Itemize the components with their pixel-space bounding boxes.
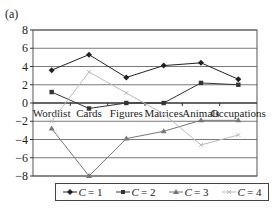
y-tick-label: 0 — [22, 96, 28, 110]
legend-cross-marker-icon — [222, 187, 236, 197]
legend-item-c3: C = 3 — [169, 186, 209, 198]
legend-item-c2: C = 2 — [116, 186, 156, 198]
legend-label-var: C — [79, 186, 86, 198]
y-tick-label: 4 — [22, 60, 28, 74]
y-tick-label: −8 — [15, 169, 28, 183]
y-axis: 86420−2−4−6−8 — [15, 23, 33, 183]
x-category-label: Figures — [110, 107, 143, 119]
y-tick-label: −6 — [15, 151, 28, 165]
legend-label-value: = 4 — [247, 186, 261, 198]
legend: C = 1 C = 2 C = 3 C = 4 — [55, 183, 269, 201]
legend-label-var: C — [238, 186, 245, 198]
y-tick-label: −2 — [15, 114, 28, 128]
line-chart: 86420−2−4−6−8 WordlistCardsFiguresMatric… — [0, 0, 272, 183]
legend-label-value: = 1 — [88, 186, 102, 198]
legend-item-c1: C = 1 — [63, 186, 103, 198]
legend-label-var: C — [185, 186, 192, 198]
x-category-label: Occupations — [211, 107, 266, 119]
legend-diamond-marker-icon — [63, 187, 77, 197]
y-tick-label: −4 — [15, 133, 28, 147]
legend-label-value: = 2 — [141, 186, 155, 198]
legend-triangle-marker-icon — [169, 187, 183, 197]
y-tick-label: 6 — [22, 41, 28, 55]
y-tick-label: 8 — [22, 23, 28, 37]
legend-label-value: = 3 — [194, 186, 208, 198]
y-tick-label: 2 — [22, 78, 28, 92]
series-1 — [49, 52, 242, 83]
series-3 — [49, 117, 242, 178]
x-category-label: Wordlist — [33, 107, 71, 119]
legend-square-marker-icon — [116, 187, 130, 197]
legend-label-var: C — [132, 186, 139, 198]
x-category-label: Matrices — [144, 107, 182, 119]
legend-item-c4: C = 4 — [222, 186, 262, 198]
